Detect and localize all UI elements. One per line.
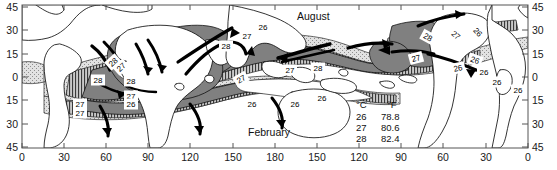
contour-label: 26 (259, 23, 268, 32)
axis-tick-label: 150 (224, 151, 242, 163)
contour-label: 27 (286, 66, 295, 75)
legend-fahrenheit-value: 82.4 (381, 133, 400, 144)
axis-tick-label: 45 (532, 1, 544, 13)
axis-tick-label: 15 (532, 48, 544, 60)
axis-tick-label: 120 (350, 151, 368, 163)
legend-fahrenheit-value: 80.6 (381, 122, 400, 133)
axis-tick-label: 45 (6, 1, 18, 13)
bottom-axis-labels: 0 30 60 90 120 150 180 150 120 90 60 30 … (19, 151, 531, 163)
legend-celsius-value: 28 (356, 133, 367, 144)
left-axis-labels: 45 30 15 0 15 30 45 (6, 1, 18, 153)
legend-celsius-value: 26 (356, 111, 367, 122)
contour-label: 27 (76, 109, 85, 118)
axis-tick-label: 30 (6, 24, 18, 36)
axis-tick-label: 30 (532, 24, 544, 36)
contour-label: 26 (480, 68, 489, 77)
axis-tick-label: 0 (19, 151, 25, 163)
contour-label: 28 (127, 77, 136, 86)
axis-tick-label: 0 (525, 151, 531, 163)
axis-tick-label: 90 (395, 151, 407, 163)
axis-tick-label: 90 (142, 151, 154, 163)
axis-tick-label: 30 (6, 118, 18, 130)
legend-fahrenheit-value: 78.8 (381, 111, 400, 122)
legend-header-fahrenheit: °F (387, 99, 397, 110)
right-axis-labels: 45 30 15 0 15 30 45 (532, 1, 544, 153)
axis-tick-label: 45 (532, 141, 544, 153)
contour-label: 26 (493, 78, 502, 87)
axis-tick-label: 45 (6, 141, 18, 153)
contour-label: 27 (243, 32, 252, 41)
axis-tick-label: 15 (6, 48, 18, 60)
season-label-february: February (248, 126, 291, 138)
axis-tick-label: 60 (437, 151, 449, 163)
contour-label: 26 (248, 100, 257, 109)
axis-tick-label: 0 (12, 71, 18, 83)
contour-label: 26 (318, 94, 327, 103)
axis-tick-label: 180 (266, 151, 284, 163)
axis-tick-label: 30 (480, 151, 492, 163)
contour-label: 28 (314, 64, 323, 73)
axis-tick-label: 150 (308, 151, 326, 163)
contour-label: 26 (514, 86, 523, 95)
legend-header-celsius: °C (356, 99, 367, 110)
contour-label: 28 (222, 42, 231, 51)
axis-tick-label: 60 (100, 151, 112, 163)
figure-sst-isotherm-world-map: 28 27 28 28 27 26 (0, 0, 557, 170)
season-label-august: August (297, 10, 330, 22)
axis-tick-label: 120 (181, 151, 199, 163)
axis-tick-label: 30 (58, 151, 70, 163)
axis-tick-label: 0 (532, 71, 538, 83)
legend-celsius-value: 27 (356, 122, 367, 133)
axis-tick-label: 15 (6, 94, 18, 106)
axis-tick-label: 30 (532, 118, 544, 130)
contour-label: 28 (94, 76, 103, 85)
contour-label: 26 (291, 100, 300, 109)
map-canvas: 28 27 28 28 27 26 (0, 0, 557, 170)
contour-label: 26 (127, 100, 136, 109)
axis-tick-label: 15 (532, 94, 544, 106)
